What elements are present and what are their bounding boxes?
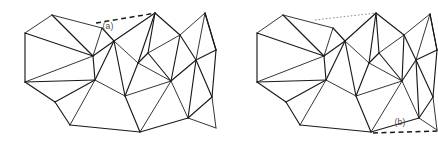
panel-label-b: (b) xyxy=(395,117,406,127)
panel-label-a: (a) xyxy=(103,21,114,31)
figure-container: (a) (b) xyxy=(0,0,438,144)
triangulated-mesh-figure: (a) (b) xyxy=(0,0,438,144)
figure-background xyxy=(0,0,438,144)
